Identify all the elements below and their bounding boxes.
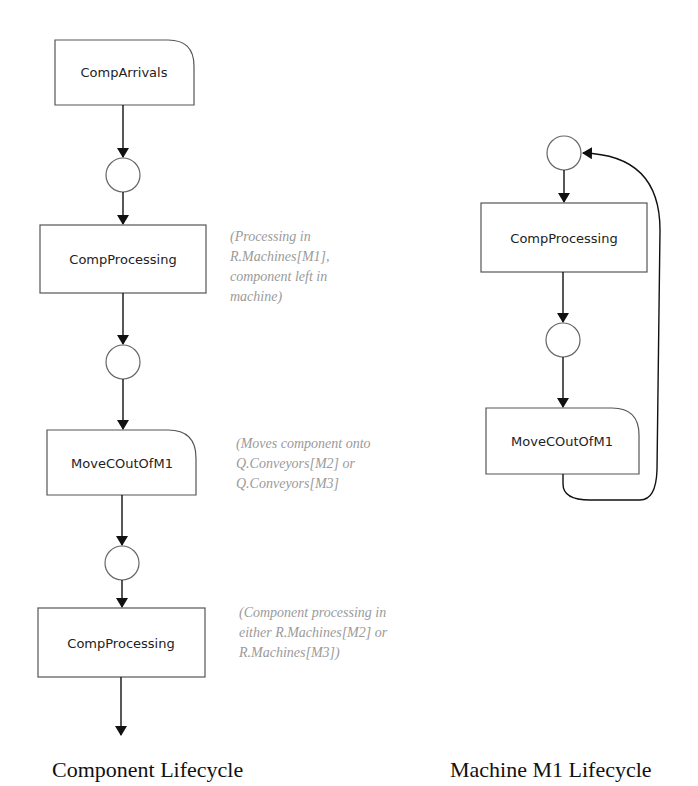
annotation-processing-m2-m3: (Component processing in either R.Machin… [238,605,388,661]
m1-place-circle-2[interactable] [546,323,580,357]
m1-move-c-out-of-m1-node[interactable]: MoveCOutOfM1 [486,408,639,474]
annotation-move-to-conveyors: (Moves component onto Q.Conveyors[M2] or… [236,436,371,491]
annotation-line: (Processing in [230,229,311,245]
comp-processing-1-node[interactable]: CompProcessing [40,225,206,293]
comp-processing-2-label: CompProcessing [67,636,174,651]
lifecycle-diagram: CompArrivals CompProcessing MoveCOutOfM1… [0,0,698,786]
machine-m1-lifecycle-title: Machine M1 Lifecycle [450,757,652,782]
annotation-line: R.Machines[M1], [229,249,330,264]
annotation-line: machine) [230,289,282,305]
annotation-line: component left in [230,269,327,284]
m1-move-c-out-of-m1-label: MoveCOutOfM1 [511,434,613,449]
annotation-line: R.Machines[M3]) [238,645,340,661]
comp-processing-2-node[interactable]: CompProcessing [38,608,205,677]
m1-comp-processing-node[interactable]: CompProcessing [481,203,647,272]
m1-comp-processing-label: CompProcessing [510,231,617,246]
comp-processing-1-label: CompProcessing [69,252,176,267]
move-c-out-of-m1-node[interactable]: MoveCOutOfM1 [47,430,196,495]
move-c-out-of-m1-label: MoveCOutOfM1 [71,456,173,471]
machine-m1-lifecycle: CompProcessing MoveCOutOfM1 Machine M1 L… [450,136,660,782]
place-circle-2[interactable] [106,345,140,379]
place-circle-3[interactable] [105,546,139,580]
comp-arrivals-node[interactable]: CompArrivals [55,40,194,105]
annotation-line: (Component processing in [239,605,386,621]
place-circle-1[interactable] [106,158,140,192]
m1-place-circle-1[interactable] [547,136,581,170]
comp-arrivals-label: CompArrivals [81,65,168,80]
annotation-processing-m1: (Processing in R.Machines[M1], component… [229,229,330,305]
annotation-line: Q.Conveyors[M2] or [236,456,356,471]
annotation-line: either R.Machines[M2] or [239,625,388,640]
annotation-line: (Moves component onto [236,436,371,452]
annotation-line: Q.Conveyors[M3] [236,476,339,491]
component-lifecycle-title: Component Lifecycle [52,757,243,782]
component-lifecycle: CompArrivals CompProcessing MoveCOutOfM1… [38,40,388,782]
